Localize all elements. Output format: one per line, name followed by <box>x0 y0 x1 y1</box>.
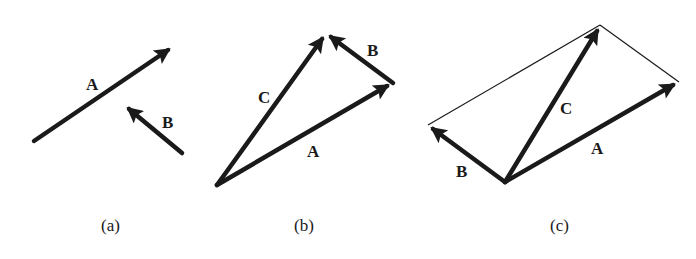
vector-a-label: A <box>591 139 604 158</box>
vector-b-label: B <box>456 162 467 181</box>
panel-a-caption: (a) <box>101 216 120 235</box>
vector-c-label: C <box>258 88 270 107</box>
vector-a-label: A <box>307 142 320 161</box>
vector-a-arrow <box>217 86 387 185</box>
panel-c: C A B (c) <box>428 25 679 235</box>
panel-b-caption: (b) <box>294 216 314 235</box>
panel-a: A B (a) <box>34 50 182 235</box>
panel-b: C A B (b) <box>217 37 393 235</box>
parallelogram-side-right <box>600 25 679 82</box>
vector-b-arrow <box>433 129 505 182</box>
parallelogram-side-top <box>428 25 600 125</box>
vector-a-arrow <box>505 85 673 182</box>
vector-b-arrow <box>129 109 182 153</box>
vector-a-label: A <box>86 75 99 94</box>
vector-b-label: B <box>367 41 378 60</box>
vector-c-label: C <box>560 99 572 118</box>
vector-addition-diagram: A B (a) C A B (b) C A B (c) <box>0 0 696 259</box>
vector-c-arrow <box>217 39 322 185</box>
panel-c-caption: (c) <box>550 216 569 235</box>
vector-b-label: B <box>162 113 173 132</box>
vector-b-arrow <box>331 37 393 83</box>
